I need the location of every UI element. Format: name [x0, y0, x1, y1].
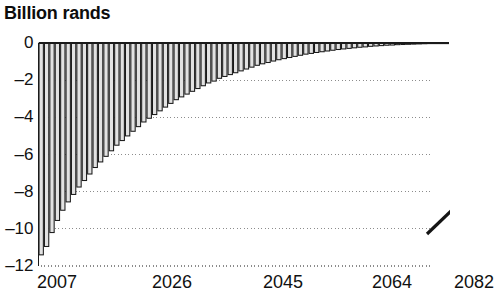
bar: [174, 43, 178, 100]
bar: [336, 43, 340, 50]
bar: [250, 43, 254, 67]
bar: [50, 43, 54, 233]
bar: [88, 43, 92, 174]
bar: [320, 43, 324, 52]
bar: [293, 43, 297, 56]
bar: [298, 43, 302, 55]
bar: [239, 43, 243, 71]
bar: [342, 43, 346, 49]
bar: [109, 43, 113, 151]
bar: [44, 43, 48, 246]
bar: [244, 43, 248, 69]
bar: [271, 43, 275, 61]
bar: [185, 43, 189, 94]
bar: [228, 43, 232, 75]
bar: [104, 43, 108, 156]
y-tick-label: –4: [15, 108, 34, 125]
bar: [98, 43, 102, 162]
bar: [131, 43, 135, 131]
bar: [266, 43, 270, 63]
bar: [61, 43, 65, 210]
bar: [325, 43, 329, 51]
bar: [233, 43, 237, 73]
bar: [136, 43, 140, 127]
y-tick-label: –8: [15, 183, 34, 200]
bar: [277, 43, 281, 60]
bar: [158, 43, 162, 111]
clipped-diagonal-line: [427, 210, 450, 234]
bar: [147, 43, 151, 118]
bar: [71, 43, 75, 194]
bar: [212, 43, 216, 81]
bar: [93, 43, 97, 168]
bar: [163, 43, 167, 107]
bar: [304, 43, 308, 54]
bar: [82, 43, 86, 181]
bar: [309, 43, 313, 53]
clipped-diagonal-stroke: [427, 210, 450, 234]
bar: [66, 43, 70, 202]
bar: [315, 43, 319, 52]
bar: [331, 43, 335, 50]
bar: [125, 43, 129, 136]
bar: [201, 43, 205, 86]
bar-group: [39, 43, 448, 255]
bar: [190, 43, 194, 91]
bar: [282, 43, 286, 59]
bar: [206, 43, 210, 83]
bar: [179, 43, 183, 97]
bar: [55, 43, 59, 220]
bar: [223, 43, 227, 76]
bar: [115, 43, 119, 145]
x-tick-label: 2007: [37, 273, 77, 291]
bar: [77, 43, 81, 187]
bar: [196, 43, 200, 89]
y-tick-label: –2: [15, 71, 34, 88]
y-tick-label: 0: [24, 34, 33, 51]
bar: [260, 43, 264, 64]
y-tick-label: –12: [5, 257, 33, 274]
bar: [142, 43, 146, 122]
bar: [347, 43, 351, 48]
x-tick-label: 2064: [372, 273, 412, 291]
bar: [39, 43, 43, 255]
x-tick-label: 2026: [152, 273, 192, 291]
bar: [120, 43, 124, 141]
bar: [152, 43, 156, 115]
bar: [217, 43, 221, 78]
bar: [288, 43, 292, 58]
y-tick-label: –10: [5, 220, 33, 237]
bar: [255, 43, 259, 65]
y-tick-label: –6: [15, 146, 34, 163]
x-tick-label: 2082: [454, 273, 494, 291]
bar: [169, 43, 173, 103]
x-tick-label: 2045: [263, 273, 303, 291]
